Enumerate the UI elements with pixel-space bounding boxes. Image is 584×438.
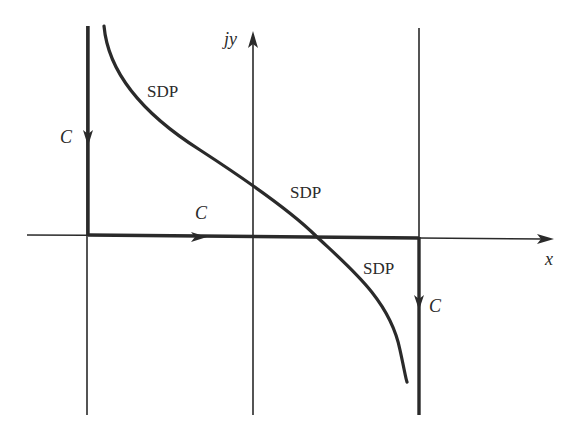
sdp-curve [104,26,407,382]
x-axis-label: x [544,249,553,269]
contour-label-left: C [60,127,73,147]
sdp-contour-diagram: jy x SDP SDP SDP C C C [0,0,584,438]
contour-c-bottom [88,235,419,238]
sdp-label-lower: SDP [363,259,394,278]
y-axis [248,31,258,415]
contour-label-right: C [429,296,442,316]
contour-label-bottom: C [195,203,208,223]
sdp-label-upper: SDP [147,82,178,101]
sdp-label-middle: SDP [290,183,321,202]
y-axis-label: jy [222,29,237,49]
